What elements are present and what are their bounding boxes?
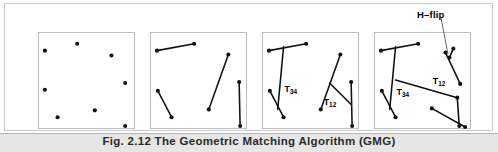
segment-endpoint xyxy=(319,107,323,111)
caption-band: Fig. 2.12 The Geometric Matching Algorit… xyxy=(0,133,498,152)
label-t34-subscript: 34 xyxy=(402,91,410,98)
seg-lower-left xyxy=(270,91,284,117)
segment-endpoint xyxy=(349,80,353,84)
panel-pairs xyxy=(150,32,247,129)
feature-point xyxy=(93,108,97,112)
panel-points-graphic xyxy=(39,33,134,128)
segment-endpoint xyxy=(430,106,434,110)
panel-transversals-graphic: T34T12 xyxy=(263,33,358,128)
segment-endpoint xyxy=(268,89,272,93)
transversal-34 xyxy=(390,47,396,110)
segment-endpoint xyxy=(350,124,354,128)
segment-endpoint xyxy=(156,89,160,93)
feature-point xyxy=(43,49,47,53)
figure-root: T34T12 T34T12 H–flip Fig. 2.12 The Geome… xyxy=(0,0,498,152)
feature-point xyxy=(123,124,127,128)
seg-lower-left xyxy=(382,91,396,117)
figure-caption: Fig. 2.12 The Geometric Matching Algorit… xyxy=(0,135,498,147)
segment-endpoint xyxy=(455,96,459,100)
seg-top xyxy=(269,44,306,51)
panel-points xyxy=(38,32,135,129)
panel-pairs-graphic xyxy=(151,33,246,128)
feature-point xyxy=(56,115,60,119)
segment-endpoint xyxy=(226,52,230,56)
label-t34: T34 xyxy=(285,84,298,95)
segment-endpoint xyxy=(458,82,462,86)
seg-lower-left xyxy=(158,91,172,117)
segment-endpoint xyxy=(282,115,286,119)
segment-endpoint xyxy=(463,125,467,129)
segment-endpoint xyxy=(394,115,398,119)
segment-endpoint xyxy=(155,49,159,53)
feature-point xyxy=(43,88,47,92)
feature-point xyxy=(123,81,127,85)
label-t12: T12 xyxy=(324,97,337,108)
segment-endpoint xyxy=(267,49,271,53)
segment-endpoint xyxy=(379,49,383,53)
label-t12-subscript: 12 xyxy=(438,80,446,87)
segment-endpoint xyxy=(238,124,242,128)
segment-endpoint xyxy=(170,115,174,119)
feature-point xyxy=(75,42,79,46)
panel-transversals: T34T12 xyxy=(262,32,359,129)
feature-point xyxy=(109,53,113,57)
seg-top xyxy=(157,44,194,51)
segment-endpoint xyxy=(192,42,196,46)
segment-endpoint xyxy=(380,89,384,93)
seg-diagonal xyxy=(209,55,229,110)
label-t34-subscript: 34 xyxy=(290,88,298,95)
label-t34: T34 xyxy=(397,87,410,98)
transversal-34 xyxy=(278,47,284,110)
seg-lower-right xyxy=(432,108,465,127)
segment-endpoint xyxy=(338,52,342,56)
label-t12: T12 xyxy=(433,76,446,87)
segment-endpoint xyxy=(304,42,308,46)
segment-endpoint xyxy=(237,80,241,84)
seg-vertical xyxy=(239,82,240,126)
segment-endpoint xyxy=(207,107,211,111)
hflip-leader-line xyxy=(400,16,495,61)
label-t12-subscript: 12 xyxy=(329,101,337,108)
seg-flipped-vertical xyxy=(457,98,459,126)
